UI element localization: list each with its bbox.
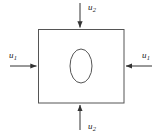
load-label-right: u1	[142, 51, 150, 60]
diagram-vector-layer	[0, 0, 162, 139]
elliptical-hole	[70, 49, 92, 83]
load-label-top-subscript: 2	[93, 6, 96, 13]
load-label-bottom-subscript: 2	[93, 125, 96, 132]
load-label-top-symbol: u	[88, 2, 93, 12]
load-label-left: u1	[9, 51, 17, 60]
load-label-left-symbol: u	[9, 50, 14, 60]
load-label-bottom: u2	[88, 122, 96, 131]
load-label-bottom-symbol: u	[88, 121, 93, 131]
load-label-right-symbol: u	[142, 50, 147, 60]
diagram-canvas: u2 u2 u1 u1	[0, 0, 162, 139]
load-label-right-subscript: 1	[147, 54, 150, 61]
load-label-top: u2	[88, 3, 96, 12]
load-label-left-subscript: 1	[14, 54, 17, 61]
